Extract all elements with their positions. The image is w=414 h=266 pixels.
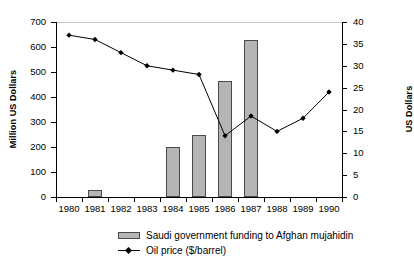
data-point-marker (170, 67, 175, 72)
x-axis-tick (238, 197, 239, 202)
legend-item-oil-price: Oil price ($/barrel) (118, 243, 353, 258)
y-axis-right-tick-label: 20 (353, 105, 393, 115)
y-axis-right-title: US Dollars (404, 34, 414, 184)
x-axis-tick (264, 197, 265, 202)
data-point-marker (144, 63, 149, 68)
x-axis-tick (56, 197, 57, 202)
chart-legend: Saudi government funding to Afghan mujah… (118, 228, 353, 258)
y-axis-right-tick (342, 110, 347, 111)
data-point-marker (274, 129, 279, 134)
y-axis-right-tick (342, 175, 347, 176)
oil-price-line (69, 35, 329, 136)
x-axis-tick (316, 197, 317, 202)
y-axis-right-tick-label: 30 (353, 61, 393, 71)
y-axis-left-tick-label: 100 (6, 167, 46, 177)
x-axis-line (56, 197, 342, 198)
x-axis-tick (186, 197, 187, 202)
x-axis-tick (134, 197, 135, 202)
y-axis-left-tick-label: 500 (6, 67, 46, 77)
y-axis-right-tick (342, 153, 347, 154)
y-axis-right-tick-label: 10 (353, 148, 393, 158)
y-axis-left-tick-label: 700 (6, 17, 46, 27)
x-axis-tick (160, 197, 161, 202)
legend-item-label: Oil price ($/barrel) (146, 246, 226, 256)
y-axis-left-tick-label: 400 (6, 92, 46, 102)
data-point-marker (66, 32, 71, 37)
data-point-marker (196, 72, 201, 77)
legend-item-label: Saudi government funding to Afghan mujah… (146, 231, 353, 241)
y-axis-right-tick (342, 88, 347, 89)
y-axis-right-tick (342, 22, 347, 23)
legend-item-saudi-funding: Saudi government funding to Afghan mujah… (118, 228, 353, 243)
y-axis-right-tick-label: 5 (353, 170, 393, 180)
y-axis-right-tick-label: 0 (353, 192, 393, 202)
data-point-marker (92, 37, 97, 42)
y-axis-right-tick-label: 25 (353, 83, 393, 93)
y-axis-right-tick (342, 66, 347, 67)
y-axis-right-tick-label: 40 (353, 17, 393, 27)
y-axis-right-tick-label: 35 (353, 39, 393, 49)
x-axis-tick (342, 197, 343, 202)
y-axis-left-tick-label: 200 (6, 142, 46, 152)
x-axis-tick-label: 1990 (309, 204, 349, 214)
y-axis-left-tick-label: 300 (6, 117, 46, 127)
line-swatch-icon (118, 247, 140, 254)
plot-area: 0100200300400500600700 0510152025303540 … (56, 22, 342, 197)
y-axis-right-tick (342, 131, 347, 132)
x-axis-tick (212, 197, 213, 202)
bar-swatch-icon (118, 232, 140, 239)
x-axis-tick (108, 197, 109, 202)
x-axis-tick (290, 197, 291, 202)
line-series-oil-price (56, 22, 342, 197)
y-axis-left-tick-label: 0 (6, 192, 46, 202)
y-axis-left-tick-label: 600 (6, 42, 46, 52)
data-point-marker (118, 50, 123, 55)
y-axis-right-tick (342, 44, 347, 45)
y-axis-right-tick-label: 15 (353, 126, 393, 136)
x-axis-tick (82, 197, 83, 202)
y-axis-left-title: Million US Dollars (8, 34, 18, 184)
